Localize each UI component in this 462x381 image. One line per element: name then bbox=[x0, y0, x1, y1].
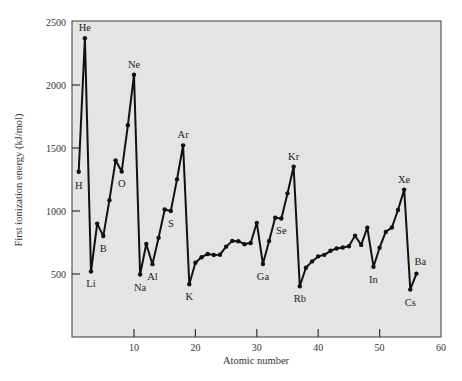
data-point bbox=[255, 221, 259, 225]
data-point bbox=[408, 287, 412, 291]
data-point bbox=[298, 284, 302, 288]
data-point bbox=[175, 177, 179, 181]
data-point bbox=[353, 233, 357, 237]
data-point bbox=[107, 198, 111, 202]
data-point bbox=[279, 216, 283, 220]
data-point bbox=[359, 243, 363, 247]
data-point bbox=[77, 169, 81, 173]
data-point bbox=[316, 254, 320, 258]
data-point bbox=[261, 262, 265, 266]
data-point bbox=[83, 36, 87, 40]
y-axis-title: First ionization energy (kJ/mol) bbox=[13, 113, 25, 247]
data-point bbox=[101, 234, 105, 238]
data-point bbox=[248, 241, 252, 245]
data-point bbox=[341, 245, 345, 249]
data-point bbox=[193, 260, 197, 264]
data-point bbox=[120, 169, 124, 173]
element-label-he: He bbox=[79, 22, 92, 33]
data-point bbox=[396, 208, 400, 212]
data-point bbox=[291, 165, 295, 169]
data-point bbox=[132, 73, 136, 77]
data-point bbox=[310, 259, 314, 263]
y-tick-label: 2000 bbox=[46, 80, 66, 91]
element-label-ar: Ar bbox=[178, 129, 190, 140]
data-point bbox=[371, 264, 375, 268]
data-point bbox=[89, 269, 93, 273]
data-point bbox=[144, 242, 148, 246]
data-point bbox=[95, 221, 99, 225]
data-point bbox=[334, 246, 338, 250]
element-label-s: S bbox=[168, 218, 174, 229]
data-point bbox=[113, 158, 117, 162]
data-point bbox=[273, 215, 277, 219]
data-point bbox=[224, 244, 228, 248]
data-point bbox=[138, 272, 142, 276]
y-tick-label: 2500 bbox=[46, 17, 66, 28]
element-label-ba: Ba bbox=[415, 256, 427, 267]
data-point bbox=[414, 271, 418, 275]
data-point bbox=[267, 239, 271, 243]
data-point bbox=[384, 230, 388, 234]
element-label-li: Li bbox=[86, 278, 95, 289]
element-label-ga: Ga bbox=[257, 271, 270, 282]
element-label-xe: Xe bbox=[398, 174, 411, 185]
data-point bbox=[377, 245, 381, 249]
x-tick-label: 10 bbox=[129, 342, 139, 353]
data-point bbox=[230, 239, 234, 243]
data-point bbox=[347, 244, 351, 248]
y-tick-label: 1000 bbox=[46, 206, 66, 217]
x-tick-label: 60 bbox=[436, 342, 446, 353]
x-tick-label: 40 bbox=[313, 342, 323, 353]
x-axis-title: Atomic number bbox=[223, 355, 290, 366]
data-point bbox=[181, 143, 185, 147]
data-point bbox=[322, 253, 326, 257]
element-label-ne: Ne bbox=[128, 59, 141, 70]
data-point bbox=[187, 282, 191, 286]
element-label-in: In bbox=[369, 274, 378, 285]
element-label-cs: Cs bbox=[405, 297, 416, 308]
x-tick-label: 50 bbox=[375, 342, 385, 353]
element-label-h: H bbox=[75, 180, 83, 191]
data-point bbox=[150, 262, 154, 266]
data-point bbox=[126, 123, 130, 127]
element-label-na: Na bbox=[134, 282, 147, 293]
data-point bbox=[328, 249, 332, 253]
ionization-energy-chart: 5001000150020002500 102030405060 HHeLiBO… bbox=[0, 0, 462, 381]
x-tick-label: 20 bbox=[190, 342, 200, 353]
y-tick-label: 500 bbox=[51, 269, 66, 280]
data-point bbox=[285, 191, 289, 195]
data-point bbox=[304, 266, 308, 270]
data-point bbox=[199, 255, 203, 259]
y-tick-label: 1500 bbox=[46, 143, 66, 154]
data-point bbox=[218, 253, 222, 257]
element-label-al: Al bbox=[147, 271, 158, 282]
element-label-se: Se bbox=[276, 225, 287, 236]
x-tick-label: 30 bbox=[252, 342, 262, 353]
data-point bbox=[236, 239, 240, 243]
data-point bbox=[365, 225, 369, 229]
data-point bbox=[156, 236, 160, 240]
data-point bbox=[402, 187, 406, 191]
data-point bbox=[390, 225, 394, 229]
data-point bbox=[169, 209, 173, 213]
data-point bbox=[205, 252, 209, 256]
data-point bbox=[163, 207, 167, 211]
element-label-kr: Kr bbox=[288, 151, 300, 162]
element-label-b: B bbox=[100, 243, 107, 254]
element-label-o: O bbox=[118, 178, 126, 189]
element-label-rb: Rb bbox=[294, 293, 306, 304]
data-point bbox=[242, 242, 246, 246]
data-point bbox=[212, 253, 216, 257]
element-label-k: K bbox=[185, 291, 193, 302]
